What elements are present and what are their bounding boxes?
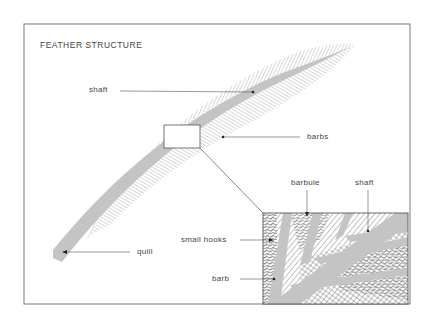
label-barb: barb <box>212 274 229 284</box>
diagram-title: FEATHER STRUCTURE <box>40 40 142 50</box>
label-shaft-inset: shaft <box>355 178 374 188</box>
label-quill: quill <box>137 247 153 257</box>
inset-detail <box>263 213 408 304</box>
label-shaft: shaft <box>89 85 108 95</box>
magnify-region <box>164 125 200 148</box>
label-small-hooks: small hooks <box>181 235 227 245</box>
zoom-line <box>200 148 263 213</box>
label-barbs: barbs <box>307 132 329 142</box>
label-barbule: barbule <box>291 178 320 188</box>
